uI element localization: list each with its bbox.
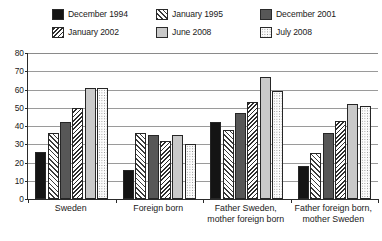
legend-swatch-icon (156, 27, 168, 38)
x-axis-labels: SwedenForeign bornFather Sweden, mother … (27, 203, 377, 224)
bar[interactable] (35, 152, 46, 199)
x-axis-category-label: Father foreign born, mother Sweden (290, 203, 378, 224)
x-axis-category-label: Sweden (27, 203, 115, 224)
bar[interactable] (135, 133, 146, 199)
y-axis-tick-label: 10 (15, 177, 24, 185)
y-axis-tick-label: 20 (15, 158, 24, 166)
y-axis-tick-label: 80 (15, 49, 24, 57)
bar-group (291, 53, 379, 199)
bar[interactable] (172, 135, 183, 199)
legend-swatch-icon (260, 27, 272, 38)
bar[interactable] (48, 133, 59, 199)
legend-item-label: January 1995 (172, 10, 223, 19)
legend-item[interactable]: January 1995 (156, 5, 260, 23)
x-axis-category-label: Foreign born (115, 203, 203, 224)
legend-item-label: July 2008 (276, 28, 312, 37)
bar[interactable] (60, 122, 71, 199)
legend-swatch-icon (260, 9, 272, 20)
bar[interactable] (247, 102, 258, 199)
bar[interactable] (260, 77, 271, 199)
bar[interactable] (123, 170, 134, 199)
y-axis-tick-label: 70 (15, 67, 24, 75)
legend-item-label: June 2008 (172, 28, 211, 37)
bar-group (116, 53, 204, 199)
x-axis-tick-mark (378, 199, 379, 203)
bar[interactable] (72, 108, 83, 199)
legend-item[interactable]: December 1994 (52, 5, 156, 23)
plot-area: 80706050403020100 (27, 53, 378, 200)
bar-group (203, 53, 291, 199)
bar[interactable] (360, 106, 371, 199)
bar[interactable] (347, 104, 358, 199)
bar[interactable] (298, 166, 309, 199)
y-axis-tick-label: 60 (15, 85, 24, 93)
bar[interactable] (310, 153, 321, 199)
legend-item-label: December 2001 (276, 10, 336, 19)
y-axis-tick-label: 50 (15, 104, 24, 112)
y-axis-tick-label: 30 (15, 140, 24, 148)
bar-group (28, 53, 116, 199)
legend-item[interactable]: July 2008 (260, 23, 364, 41)
legend-swatch-icon (156, 9, 168, 20)
bar[interactable] (85, 88, 96, 199)
legend-item[interactable]: January 2002 (52, 23, 156, 41)
bar-chart: December 1994January 1995December 2001Ja… (0, 0, 382, 241)
chart-legend: December 1994January 1995December 2001Ja… (52, 5, 378, 41)
y-axis-tick-label: 40 (15, 122, 24, 130)
bar[interactable] (185, 144, 196, 199)
bar[interactable] (148, 135, 159, 199)
bar[interactable] (335, 121, 346, 199)
legend-item[interactable]: December 2001 (260, 5, 364, 23)
legend-swatch-icon (52, 27, 64, 38)
bar[interactable] (223, 130, 234, 199)
bar[interactable] (97, 88, 108, 199)
bar[interactable] (210, 122, 221, 199)
legend-item[interactable]: June 2008 (156, 23, 260, 41)
legend-item-label: December 1994 (68, 10, 128, 19)
bar[interactable] (235, 113, 246, 199)
bar[interactable] (272, 91, 283, 199)
y-axis-tick-label: 0 (19, 195, 24, 203)
x-axis-category-label: Father Sweden, mother foreign born (202, 203, 290, 224)
legend-swatch-icon (52, 9, 64, 20)
bar[interactable] (160, 141, 171, 199)
bar[interactable] (323, 133, 334, 199)
legend-item-label: January 2002 (68, 28, 119, 37)
bar-groups (28, 53, 378, 199)
